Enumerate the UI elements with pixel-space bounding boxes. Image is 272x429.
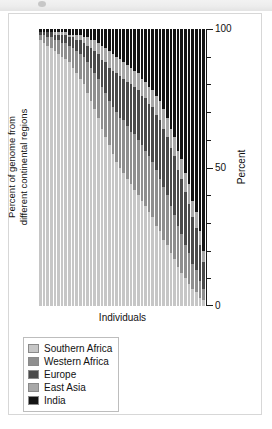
bar-segment [130, 132, 133, 185]
bar-segment [93, 109, 96, 306]
bar-segment [86, 29, 89, 37]
figure-card: 050100 Percent of genome from different … [8, 13, 262, 415]
stacked-bar-plot-area [39, 29, 206, 306]
bar-segment [119, 29, 122, 59]
plot-wrapper: 050100 Percent of genome from different … [39, 29, 239, 321]
bar-segment [166, 245, 169, 306]
bar-segment [57, 40, 60, 54]
bar-segment [133, 134, 136, 189]
axis-tick [206, 57, 211, 58]
bar-segment [177, 151, 180, 170]
bar-segment [148, 156, 151, 211]
bar-segment [199, 298, 202, 306]
bar-segment [148, 212, 151, 306]
bar-segment [64, 59, 67, 306]
bar-segment [83, 43, 86, 57]
bar-segment [188, 284, 191, 306]
bar-segment [61, 43, 64, 57]
bar-segment [151, 29, 154, 90]
bar-segment [50, 48, 53, 306]
bar-segment [151, 217, 154, 306]
bar-segment [137, 90, 140, 140]
axis-tick [206, 251, 211, 252]
x-axis-title: Individuals [39, 312, 206, 323]
bar-segment [93, 29, 96, 40]
bar-segment [162, 109, 165, 128]
bar-segment [202, 262, 205, 290]
bar-segment [199, 231, 202, 245]
bar-segment [97, 29, 100, 43]
axis-tick-label: 50 [215, 163, 226, 173]
bar-segment [162, 29, 165, 109]
bar-segment [108, 51, 111, 68]
bar-segment [184, 173, 187, 192]
bar-segment [170, 129, 173, 148]
bar-segment [97, 43, 100, 54]
bar-segment [144, 82, 147, 99]
axis-tick [206, 305, 213, 306]
axis-tick-label: 100 [215, 24, 232, 34]
bar-segment [79, 79, 82, 306]
bar-segment [202, 289, 205, 300]
bar-segment [199, 245, 202, 281]
bar-segment [43, 35, 46, 43]
bar-segment [75, 73, 78, 306]
bar-segment [112, 107, 115, 154]
legend-label: Western Africa [44, 356, 109, 367]
bar-segment [122, 62, 125, 79]
banner-blob-icon [38, 1, 46, 7]
bar-segment [202, 29, 205, 251]
bar-segment [159, 101, 162, 120]
bar-segment [101, 46, 104, 60]
bar-segment [119, 59, 122, 76]
legend-item: Western Africa [28, 355, 112, 368]
bar-segment [180, 29, 183, 159]
bar-segment [86, 46, 89, 63]
bar-segment [133, 29, 136, 71]
bar-segment [141, 145, 144, 200]
bar-segment [64, 35, 67, 43]
bar-segment [199, 281, 202, 298]
bar-segment [86, 93, 89, 306]
bar-segment [151, 107, 154, 162]
legend-item: Southern Africa [28, 342, 112, 355]
bar-segment [202, 251, 205, 262]
bar-segment [177, 170, 180, 225]
y-axis-title-line2: different continental regions [17, 109, 28, 226]
bar-segment [159, 120, 162, 178]
legend: Southern AfricaWestern AfricaEuropeEast … [23, 337, 119, 412]
bar-segment [68, 37, 71, 45]
bar-segment [104, 29, 107, 48]
bar-segment [64, 43, 67, 60]
bar-segment [162, 187, 165, 240]
bar-segment [54, 40, 57, 51]
bar-segment [75, 40, 78, 51]
bar-segment [122, 79, 125, 121]
axis-tick [206, 168, 213, 169]
bar-segment [170, 206, 173, 253]
bar-segment [151, 90, 154, 107]
bar-segment [191, 289, 194, 306]
bar-segment [166, 118, 169, 137]
axis-tick [206, 195, 211, 196]
axis-tick [206, 84, 211, 85]
bar-segment [90, 40, 93, 48]
bar-segment [119, 168, 122, 307]
bar-segment [137, 29, 140, 73]
bar-segment [155, 115, 158, 170]
bar-segment [72, 68, 75, 306]
bar-segment [115, 57, 118, 74]
bar-segment [166, 195, 169, 245]
legend-swatch [28, 383, 39, 392]
legend-item: India [28, 394, 112, 407]
bar-segment [133, 190, 136, 306]
bar-segment [133, 87, 136, 134]
y-axis-title-line1: Percent of genome from [6, 116, 17, 218]
bar-segment [54, 51, 57, 306]
bar-segment [126, 82, 129, 126]
bar-segment [195, 270, 198, 292]
bar-segment [191, 29, 194, 201]
bar-segment [173, 215, 176, 259]
bar-segment [195, 292, 198, 306]
bar-segment [43, 43, 46, 306]
